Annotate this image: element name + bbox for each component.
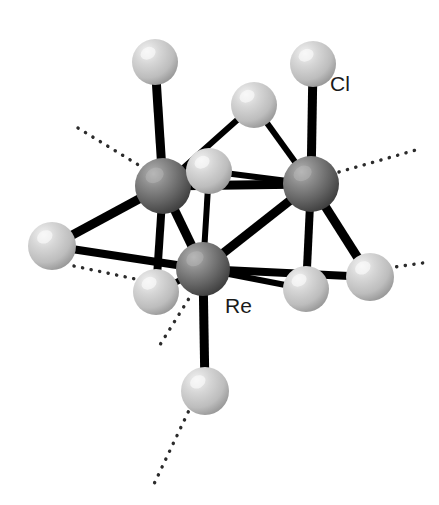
atom-body — [181, 367, 229, 415]
dotted-bond — [388, 262, 430, 268]
atom-body — [133, 269, 179, 315]
atom-body — [28, 222, 76, 270]
dotted-bond — [74, 266, 140, 280]
atom-body — [176, 242, 230, 296]
atom-sphere-cl — [283, 266, 329, 312]
label-re: Re — [225, 294, 252, 317]
atom-sphere-cl — [181, 367, 229, 415]
atom-body — [283, 156, 339, 212]
atom-body — [346, 253, 394, 301]
bonds-layer — [52, 62, 370, 391]
molecular-structure-figure: ClRe — [0, 0, 439, 505]
atom-body — [283, 266, 329, 312]
atom-sphere-cl — [132, 39, 178, 85]
atom-sphere-cl — [28, 222, 76, 270]
dotted-bond — [154, 404, 192, 484]
atom-sphere-cl — [186, 148, 232, 194]
atom-sphere-cl — [346, 253, 394, 301]
dotted-bond — [78, 128, 150, 172]
atom-sphere-re — [283, 156, 339, 212]
label-cl: Cl — [330, 72, 350, 95]
atom-sphere-re — [135, 158, 191, 214]
atom-body — [132, 39, 178, 85]
molecule-diagram: ClRe — [0, 0, 439, 505]
dotted-bond — [339, 150, 416, 172]
atom-sphere-re — [176, 242, 230, 296]
atom-body — [186, 148, 232, 194]
atom-sphere-cl — [133, 269, 179, 315]
atom-sphere-cl — [231, 82, 277, 128]
atom-body — [135, 158, 191, 214]
atom-body — [231, 82, 277, 128]
